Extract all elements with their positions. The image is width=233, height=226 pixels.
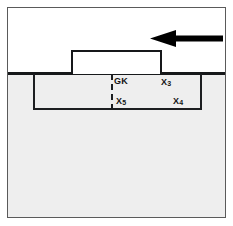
label-x4: X4 [173, 97, 183, 106]
label-x5: X5 [116, 97, 126, 106]
cross-section-diagram: GK X3 X5 X4 [8, 8, 225, 217]
label-x3: X3 [161, 78, 171, 87]
label-gk-base: GK [114, 76, 128, 86]
label-x5-sub: 5 [122, 99, 126, 106]
label-x4-sub: 4 [179, 99, 183, 106]
label-gk: GK [114, 77, 128, 86]
raised-gate-block [71, 50, 162, 74]
figure-root: GK X3 X5 X4 [0, 0, 233, 226]
dashed-junction-line [111, 74, 113, 110]
label-x3-sub: 3 [167, 80, 171, 87]
left-pointing-arrow [150, 30, 223, 47]
